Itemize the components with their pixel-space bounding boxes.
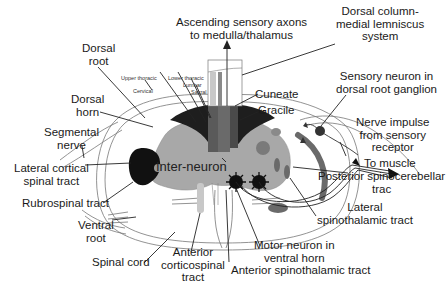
label-to-muscle: To muscle xyxy=(364,157,416,170)
label-line: tract xyxy=(161,271,225,284)
dorsal-column-sacral xyxy=(230,104,238,148)
label-posterior-spinocerebellar: Posterior spinocerebellar trac xyxy=(318,170,445,195)
label-line: medial lemniscus xyxy=(336,18,424,31)
label-line: Dorsal xyxy=(71,93,104,106)
label-anterior-corticospinal: Anterior corticospinal tract xyxy=(161,246,225,284)
label-line: dorsal root ganglion xyxy=(336,83,437,96)
label-line: root xyxy=(78,232,114,245)
label-line: trac xyxy=(318,183,445,196)
label-line: Nerve impulse xyxy=(356,116,430,129)
label-sacral: Sacral xyxy=(191,89,207,95)
spinal-cord-diagram: Ascending sensory axons to medulla/thala… xyxy=(0,0,448,294)
label-line: corticospinal xyxy=(161,259,225,272)
label-line: Dorsal xyxy=(82,42,115,55)
label-line: ventral horn xyxy=(254,252,335,265)
label-spinal-cord: Spinal cord xyxy=(92,256,150,269)
label-line: receptor xyxy=(356,141,430,154)
label-lateral-spinothalamic: Lateral spinothalamic tract xyxy=(317,201,413,226)
label-line: Lateral xyxy=(317,201,413,214)
dorsal-column-gracile xyxy=(218,104,230,152)
label-sensory-neuron: Sensory neuron in dorsal root ganglion xyxy=(336,70,437,95)
label-gracile: Gracile xyxy=(258,104,294,117)
label-interneuron: Inter-neuron xyxy=(156,160,227,174)
label-dorsal-horn: Dorsal horn xyxy=(71,93,104,118)
label-line: system xyxy=(336,30,424,43)
label-lateral-cortical-spinal-tract: Lateral cortical spinal tract xyxy=(14,162,89,187)
label-line: Anterior xyxy=(161,246,225,259)
label-line: Motor neuron in xyxy=(254,239,335,252)
label-nerve-impulse: Nerve impulse from sensory receptor xyxy=(356,116,430,154)
label-lumbar: Lumbar xyxy=(183,82,202,88)
label-segmental-nerve: Segmental nerve xyxy=(44,126,99,151)
label-line: root xyxy=(82,55,115,68)
label-motor-neuron: Motor neuron in ventral horn xyxy=(254,239,335,264)
label-line: Posterior spinocerebellar xyxy=(318,170,445,183)
label-dorsal-root: Dorsal root xyxy=(82,42,115,67)
label-line: Ventral xyxy=(78,219,114,232)
label-upper-thoracic: Upper thoracic xyxy=(121,75,157,81)
label-line: nerve xyxy=(44,139,99,152)
label-lower-thoracic: Lower thoracic xyxy=(168,75,204,81)
label-line: Sensory neuron in xyxy=(336,70,437,83)
label-line: spinothalamic tract xyxy=(317,214,413,227)
label-line: Dorsal column- xyxy=(336,5,424,18)
label-line: from sensory xyxy=(356,129,430,142)
label-line: to medulla/thalamus xyxy=(176,29,307,42)
label-ventral-root: Ventral root xyxy=(78,219,114,244)
label-cuneate: Cuneate xyxy=(255,88,298,101)
label-anterior-spinothalamic: Anterior spinothalamic tract xyxy=(231,264,370,277)
label-line: Lateral cortical xyxy=(14,162,89,175)
label-line: Segmental xyxy=(44,126,99,139)
label-rubrospinal-tract: Rubrospinal tract xyxy=(22,197,109,210)
dorsal-column-cuneate xyxy=(208,104,218,152)
anterior-corticospinal-stripe xyxy=(197,183,204,213)
label-dorsal-column-system: Dorsal column- medial lemniscus system xyxy=(336,5,424,43)
label-line: horn xyxy=(71,106,104,119)
label-line: Ascending sensory axons xyxy=(176,16,307,29)
label-cervical: Cervical xyxy=(133,88,153,94)
label-ascending-sensory-axons: Ascending sensory axons to medulla/thala… xyxy=(176,16,307,41)
label-line: spinal tract xyxy=(14,175,89,188)
